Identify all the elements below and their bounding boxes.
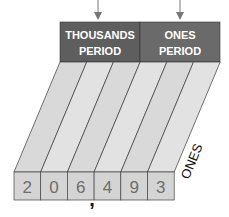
digit: 3 bbox=[156, 178, 165, 197]
period-label: PERIOD bbox=[159, 45, 201, 57]
digit: 4 bbox=[103, 178, 112, 197]
period-label: ONES bbox=[164, 29, 195, 41]
digit: 0 bbox=[49, 178, 58, 197]
place-value-diagram: THOUSANDS PERIOD ONES PERIOD HUNDREDSTEN… bbox=[0, 0, 229, 217]
period-label: THOUSANDS bbox=[65, 29, 135, 41]
arrow-icon bbox=[94, 0, 102, 20]
period-label: PERIOD bbox=[79, 45, 121, 57]
digit: 9 bbox=[129, 178, 138, 197]
digit: 6 bbox=[76, 178, 85, 197]
arrow-icon bbox=[176, 0, 184, 20]
thousands-separator: , bbox=[89, 188, 95, 210]
digit: 2 bbox=[23, 178, 32, 197]
